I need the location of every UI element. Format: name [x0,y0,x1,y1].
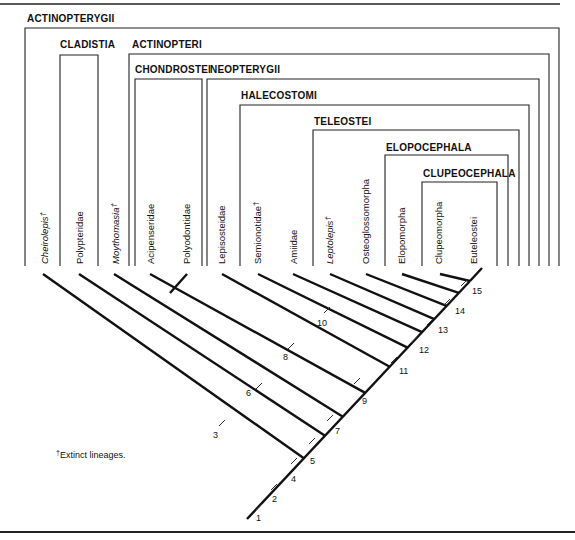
node-tick [288,343,294,349]
taxon-label: Osteoglossomorpha [360,178,371,264]
taxon-name: Polypteridae [74,211,85,264]
label-cladistia: CLADISTIA [60,39,115,50]
dagger-symbol: † [323,216,332,221]
taxon-label: Amiidae [288,230,299,264]
taxon-label: Polypteridae [74,211,85,264]
taxon-branch [470,268,482,281]
node-number: 5 [310,456,315,466]
label-actinopterygii: ACTINOPTERYGII [27,13,114,24]
node-tick [309,438,315,444]
taxon-name: Clupeomorpha [433,201,444,264]
dagger-symbol: † [109,203,118,208]
footnote-text: Extinct lineages. [60,450,126,460]
node-tick [327,415,333,421]
taxon-branch [366,274,447,306]
taxon-name: Polyodontidae [181,204,192,264]
taxon-name: Leptolepis [324,220,335,264]
node-number: 8 [283,352,288,362]
cladogram: ACTINOPTERYGII CLADISTIA ACTINOPTERI CHO… [0,0,575,540]
node-number: 11 [399,366,408,376]
node-tick [291,458,297,464]
node-number: 6 [246,388,251,398]
node-tick [354,378,360,384]
taxon-label: Semionotidae† [251,201,263,264]
node-tick [256,383,262,389]
label-elopocephala: ELOPOCEPHALA [386,142,472,153]
taxon-label: Cheirolepis† [38,211,50,264]
taxon-branch [79,274,325,436]
taxon-name: Elopomorpha [396,207,407,264]
taxon-label: Lepisosteidae [216,205,227,264]
node-number: 4 [291,474,296,484]
node-number: 1 [256,513,261,523]
node-tick [219,420,225,426]
label-neopterygii: NEOPTERYGII [210,64,280,75]
box-actinopteri [129,54,549,266]
label-chondrostei: CHONDROSTEI [135,64,211,75]
label-teleostei: TELEOSTEI [314,116,371,127]
node-number: 9 [362,396,367,406]
taxon-name: Acipenseridae [145,204,156,264]
spine-branch [247,281,470,519]
taxon-branch [440,274,470,281]
taxon-branch [114,274,343,417]
taxon-name: Osteoglossomorpha [360,178,371,264]
node-number: 10 [317,318,327,328]
node-number: 7 [335,426,340,436]
node-number: 13 [438,325,448,335]
taxon-label: Moythomasia† [109,203,121,265]
taxon-label: Euteleostei [468,217,479,264]
taxon-label: Elopomorpha [396,207,407,264]
extinct-footnote: †Extinct lineages. [56,449,125,460]
node-number: 2 [272,494,277,504]
taxon-label: Clupeomorpha [433,201,444,264]
taxon-name: Moythomasia [110,208,121,265]
label-clupeocephala: CLUPEOCEPHALA [423,168,516,179]
taxon-name: Semionotidae [252,206,263,264]
node-number: 14 [455,306,465,316]
taxon-name: Amiidae [288,230,299,264]
taxon-branch [258,274,408,348]
taxon-name: Cheirolepis [39,216,50,264]
taxon-label: Acipenseridae [145,204,156,264]
label-actinopteri: ACTINOPTERI [132,39,202,50]
taxon-label: Polyodontidae [181,204,192,264]
dagger-symbol: † [38,211,47,216]
taxon-name: Euteleostei [468,217,479,264]
label-halecostomi: HALECOSTOMI [241,90,317,101]
taxon-name: Lepisosteidae [216,205,227,264]
taxon-branch [43,274,304,458]
node-number: 12 [419,345,429,355]
node-number: 3 [213,430,218,440]
dagger-symbol: † [251,201,260,205]
taxon-label: Leptolepis† [323,216,335,264]
node-number: 15 [472,286,482,296]
